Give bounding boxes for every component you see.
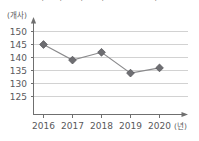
x-tick-labels: 2016 2017 2018 2019 2020	[32, 121, 171, 131]
x-tick-label-2019: 2019	[119, 121, 142, 131]
x-axis-unit-label: (년)	[174, 121, 187, 131]
chart-canvas: (개사) 150 145 140 135 130 125 20	[0, 9, 199, 141]
x-axis-arrow-icon	[182, 112, 189, 117]
x-tick-label-2017: 2017	[61, 121, 84, 131]
y-axis-arrow-icon	[31, 17, 36, 24]
y-tick-label-130: 130	[10, 79, 27, 89]
data-point-2016[interactable]	[40, 41, 48, 49]
y-tick-label-135: 135	[10, 66, 27, 76]
y-tick-label-150: 150	[10, 27, 27, 37]
data-point-2018[interactable]	[98, 48, 106, 56]
gridlines	[34, 32, 188, 97]
y-tick-label-145: 145	[10, 40, 27, 50]
y-tick-label-125: 125	[10, 92, 27, 102]
cropped-caption-text: ㅡㅡ ㅡ ㅡ ㅣ ㅡㅣ ㅡ ㅣ ㅡ ㅣ ㅡ ㅡ ㅡ ㅡ ㅣ ㅡ	[0, 0, 170, 2]
y-axis-unit-label: (개사)	[7, 10, 27, 20]
x-tick-label-2016: 2016	[32, 121, 55, 131]
x-axis	[34, 112, 189, 117]
x-tick-label-2018: 2018	[90, 121, 113, 131]
cropped-caption-sliver: ㅡㅡ ㅡ ㅡ ㅣ ㅡㅣ ㅡ ㅣ ㅡ ㅣ ㅡ ㅡ ㅡ ㅡ ㅣ ㅡ	[0, 0, 199, 9]
y-tick-labels: 150 145 140 135 130 125	[10, 27, 27, 102]
line-chart: (개사) 150 145 140 135 130 125 20	[0, 9, 199, 141]
data-series	[40, 41, 164, 77]
x-tick-label-2020: 2020	[148, 121, 171, 131]
screenshot-root: ㅡㅡ ㅡ ㅡ ㅣ ㅡㅣ ㅡ ㅣ ㅡ ㅣ ㅡ ㅡ ㅡ ㅡ ㅣ ㅡ	[0, 0, 199, 141]
y-tick-label-140: 140	[10, 53, 27, 63]
